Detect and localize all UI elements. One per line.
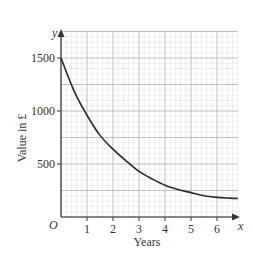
minor-gridlines	[61, 32, 238, 218]
x-ticks: 123456	[84, 217, 220, 236]
x-tick-label: 6	[214, 222, 220, 236]
x-tick-label: 3	[136, 222, 142, 236]
x-axis-symbol: x	[237, 219, 244, 233]
chart: 123456 50010001500 y x O Years Value in …	[0, 0, 253, 261]
y-axis-symbol: y	[51, 26, 58, 40]
y-axis-arrow-icon	[58, 29, 65, 37]
x-tick-label: 5	[188, 222, 194, 236]
y-axis-label: Value in £	[15, 114, 29, 163]
y-tick-label: 1500	[31, 51, 55, 65]
x-tick-label: 4	[162, 222, 168, 236]
y-tick-label: 500	[37, 157, 55, 171]
origin-label: O	[49, 218, 58, 232]
y-ticks: 50010001500	[31, 51, 61, 171]
x-axis-label: Years	[134, 235, 161, 249]
x-tick-label: 1	[84, 222, 90, 236]
x-tick-label: 2	[110, 222, 116, 236]
y-tick-label: 1000	[31, 104, 55, 118]
